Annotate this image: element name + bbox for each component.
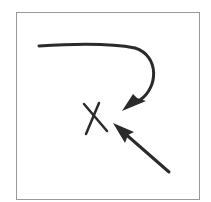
diagram-canvas — [0, 0, 211, 202]
diagram-frame — [17, 13, 200, 200]
